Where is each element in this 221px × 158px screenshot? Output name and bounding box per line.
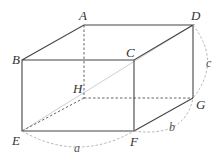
prism-svg: A B C D E F G H a b c <box>0 0 221 158</box>
diagonal-ED <box>22 25 193 131</box>
vertex-label-G: G <box>196 97 206 112</box>
vertex-label-E: E <box>11 133 20 148</box>
prism-diagram: A B C D E F G H a b c <box>0 0 221 158</box>
vertex-label-C: C <box>126 45 135 60</box>
dimension-label-b: b <box>169 120 175 134</box>
dimension-label-a: a <box>74 141 80 155</box>
vertex-label-H: H <box>72 81 83 96</box>
vertex-label-B: B <box>12 52 20 67</box>
vertex-label-D: D <box>190 8 201 23</box>
vertex-label-F: F <box>129 134 139 149</box>
vertex-label-A: A <box>78 8 87 23</box>
dimension-label-c: c <box>206 56 212 70</box>
dimension-arcs <box>22 25 208 147</box>
